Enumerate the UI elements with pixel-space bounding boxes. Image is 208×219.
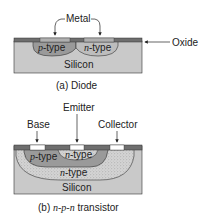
diode-figure: Metal Oxide p-type n-type Silicon (a) Di… xyxy=(14,13,199,91)
transistor-n-type-collector-label: n-type xyxy=(60,167,88,178)
transistor-p-type-label: p-type xyxy=(29,151,58,162)
oxide-label: Oxide xyxy=(172,37,199,48)
diode-p-type-label: p-type xyxy=(37,42,66,53)
transistor-n-type-emitter-label: n-type xyxy=(65,149,93,160)
diode-silicon-label: Silicon xyxy=(64,59,93,70)
base-contact xyxy=(30,145,45,150)
collector-contact xyxy=(110,145,124,150)
metal-arrow-left xyxy=(55,19,65,35)
semiconductor-diagram: Metal Oxide p-type n-type Silicon (a) Di… xyxy=(0,0,208,219)
diode-n-type-label: n-type xyxy=(84,42,112,53)
metal-label: Metal xyxy=(66,13,90,24)
diode-caption: (a) Diode xyxy=(56,80,98,91)
metal-arrow-right xyxy=(91,19,100,35)
transistor-caption: (b) n-p-n transistor xyxy=(38,202,119,213)
transistor-figure: Emitter Base Collector p-type n-type n-t… xyxy=(14,102,142,213)
diode-oxide-layer xyxy=(14,38,142,42)
base-label: Base xyxy=(27,119,50,130)
collector-label: Collector xyxy=(98,119,138,130)
transistor-silicon-label: Silicon xyxy=(62,182,91,193)
emitter-label: Emitter xyxy=(63,102,95,113)
